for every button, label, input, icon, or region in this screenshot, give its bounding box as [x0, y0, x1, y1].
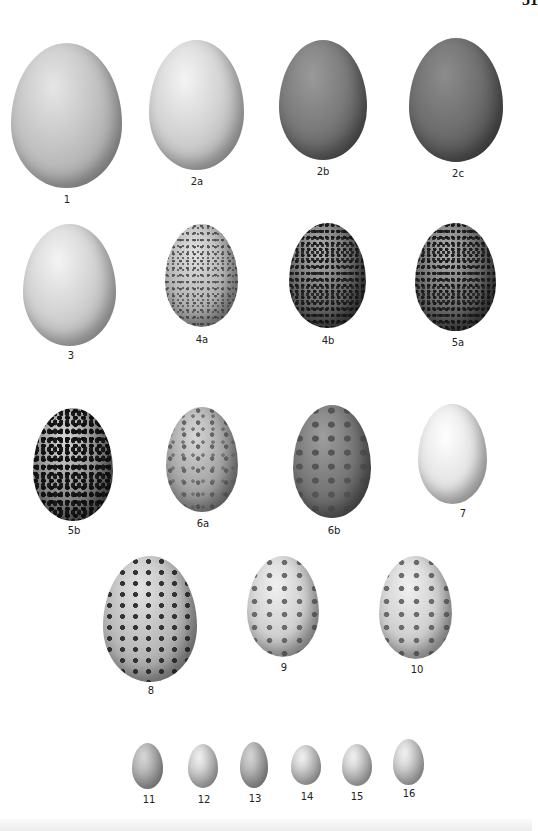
egg-specimen-9 [247, 556, 319, 657]
egg-specimen-16 [393, 739, 424, 785]
egg-label: 5b [68, 525, 81, 536]
egg-label: 7 [460, 508, 466, 519]
egg-specimen-12 [188, 744, 218, 788]
page-bottom-edge [0, 819, 532, 831]
egg-label: 10 [411, 664, 424, 675]
egg-specimen-4a [165, 224, 238, 327]
egg-label: 12 [198, 794, 211, 805]
egg-specimen-10 [379, 556, 452, 659]
egg-specimen-5a [415, 223, 496, 331]
egg-label: 16 [403, 788, 416, 799]
egg-label: 4a [196, 334, 209, 345]
egg-label: 2a [191, 176, 204, 187]
egg-label: 5a [452, 337, 465, 348]
egg-specimen-7 [418, 404, 487, 504]
page-number: 51 [522, 0, 538, 9]
egg-specimen-15 [342, 744, 372, 786]
egg-label: 4b [322, 335, 335, 346]
egg-specimen-6b [293, 405, 371, 518]
egg-specimen-14 [291, 745, 321, 785]
egg-label: 6a [197, 518, 210, 529]
egg-label: 15 [351, 791, 364, 802]
egg-specimen-13 [240, 742, 268, 788]
egg-label: 11 [143, 794, 156, 805]
egg-specimen-1 [11, 43, 122, 188]
egg-label: 2b [317, 166, 330, 177]
egg-label: 14 [301, 791, 314, 802]
egg-specimen-5b [33, 408, 113, 521]
egg-label: 6b [328, 525, 341, 536]
egg-label: 8 [148, 685, 154, 696]
egg-label: 1 [64, 194, 70, 205]
egg-specimen-8 [103, 556, 197, 682]
egg-specimen-2a [149, 40, 244, 170]
egg-specimen-2b [279, 40, 367, 160]
egg-specimen-3 [23, 224, 116, 346]
egg-label: 2c [452, 168, 464, 179]
egg-label: 9 [281, 662, 287, 673]
egg-specimen-4b [289, 223, 366, 328]
egg-specimen-11 [132, 743, 163, 789]
egg-specimen-2c [409, 38, 503, 162]
egg-label: 3 [68, 350, 74, 361]
egg-label: 13 [249, 793, 262, 804]
egg-specimen-6a [166, 407, 238, 512]
